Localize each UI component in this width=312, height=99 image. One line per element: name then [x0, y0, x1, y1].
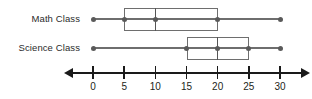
axis-tick-30	[279, 66, 281, 79]
axis-tick-10	[155, 66, 157, 79]
axis-arrow-right-icon	[301, 68, 310, 78]
axis-tick-label-25: 25	[237, 81, 261, 93]
axis-arrow-left-icon	[64, 68, 73, 78]
marker-q1-math-class	[122, 17, 127, 22]
axis-tick-15	[186, 66, 188, 79]
marker-median-math-class	[153, 17, 158, 22]
box-math-class	[124, 8, 218, 31]
box-plot-chart: Math Class Science Class 051015202530	[0, 0, 312, 99]
axis-tick-label-10: 10	[143, 81, 167, 93]
axis-tick-label-30: 30	[268, 81, 292, 93]
axis-tick-5	[123, 66, 125, 79]
axis-tick-label-0: 0	[81, 81, 105, 93]
axis-line	[72, 72, 303, 74]
axis-tick-label-5: 5	[112, 81, 136, 93]
marker-q3-math-class	[215, 17, 220, 22]
marker-q1-science-class	[184, 46, 189, 51]
axis-tick-label-15: 15	[175, 81, 199, 93]
marker-max-science-class	[278, 46, 283, 51]
axis-tick-25	[248, 66, 250, 79]
marker-min-science-class	[91, 46, 96, 51]
marker-q3-science-class	[246, 46, 251, 51]
marker-max-math-class	[278, 17, 283, 22]
axis-tick-label-20: 20	[206, 81, 230, 93]
marker-min-math-class	[91, 17, 96, 22]
axis-tick-20	[217, 66, 219, 79]
marker-median-science-class	[215, 46, 220, 51]
axis-tick-0	[92, 66, 94, 79]
